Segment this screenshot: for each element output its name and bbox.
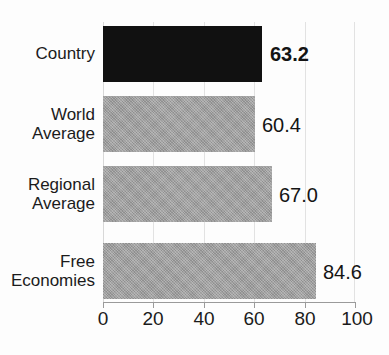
category-label-free-economies: Free Economies bbox=[0, 252, 95, 290]
x-axis-line bbox=[103, 302, 356, 303]
category-label-country-line1: Country bbox=[0, 44, 95, 63]
value-label-free-economies: 84.6 bbox=[323, 262, 362, 282]
x-tick-label-100: 100 bbox=[341, 309, 373, 328]
bar-free-economies bbox=[103, 243, 316, 299]
bar-chart: Country World Average Regional Average F… bbox=[0, 0, 389, 355]
x-tick-label-60: 60 bbox=[243, 309, 264, 328]
plot-area bbox=[103, 22, 355, 302]
bar-row-world-average bbox=[103, 96, 355, 152]
category-label-world-average: World Average bbox=[0, 105, 95, 143]
x-tick-label-80: 80 bbox=[294, 309, 315, 328]
bar-world-average bbox=[103, 96, 255, 152]
category-label-regional-average-line2: Average bbox=[0, 194, 95, 213]
bar-regional-average bbox=[103, 166, 272, 222]
category-label-world-average-line1: World bbox=[0, 105, 95, 124]
category-label-world-average-line2: Average bbox=[0, 124, 95, 143]
bar-row-country bbox=[103, 26, 355, 82]
category-label-regional-average: Regional Average bbox=[0, 175, 95, 213]
category-label-free-economies-line2: Economies bbox=[0, 271, 95, 290]
x-tick-label-20: 20 bbox=[142, 309, 163, 328]
chart-title bbox=[0, 0, 389, 2]
category-label-country: Country bbox=[0, 44, 95, 63]
value-label-regional-average: 67.0 bbox=[279, 185, 318, 205]
value-label-world-average: 60.4 bbox=[262, 115, 301, 135]
bar-row-free-economies bbox=[103, 243, 355, 299]
x-tick-label-0: 0 bbox=[98, 309, 109, 328]
x-tick-label-40: 40 bbox=[193, 309, 214, 328]
category-label-regional-average-line1: Regional bbox=[0, 175, 95, 194]
bar-country bbox=[103, 26, 262, 82]
value-label-country: 63.2 bbox=[270, 44, 309, 64]
category-label-free-economies-line1: Free bbox=[0, 252, 95, 271]
